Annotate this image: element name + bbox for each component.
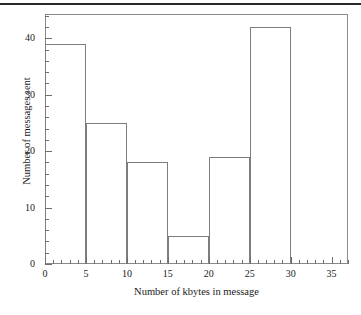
- x-axis-major-tick: [332, 257, 333, 264]
- y-axis-minor-tick: [45, 219, 49, 220]
- x-axis-minor-tick: [201, 260, 202, 264]
- y-axis-minor-tick: [45, 162, 49, 163]
- x-axis-minor-tick: [192, 260, 193, 264]
- x-axis-minor-tick: [233, 260, 234, 264]
- x-axis-minor-tick: [299, 260, 300, 264]
- x-axis-minor-tick: [340, 260, 341, 264]
- x-axis-minor-tick: [143, 260, 144, 264]
- x-axis-minor-tick: [102, 260, 103, 264]
- x-axis-tick-label: 15: [153, 268, 183, 279]
- x-axis-minor-tick: [274, 260, 275, 264]
- x-axis-minor-tick: [61, 260, 62, 264]
- x-axis-major-tick: [168, 257, 169, 264]
- x-axis-minor-tick: [315, 260, 316, 264]
- x-axis-tick-label: 10: [112, 268, 142, 279]
- x-axis-minor-tick: [94, 260, 95, 264]
- x-axis-major-tick: [291, 257, 292, 264]
- y-axis-minor-tick: [45, 117, 49, 118]
- histogram-bar: [45, 44, 86, 264]
- x-axis-minor-tick: [53, 260, 54, 264]
- y-axis-title: Number of messages sent: [21, 41, 33, 221]
- x-axis-major-tick: [127, 257, 128, 264]
- x-axis-major-tick: [209, 257, 210, 264]
- histogram-bar: [168, 236, 209, 264]
- y-axis-major-tick: [45, 95, 52, 96]
- y-axis-minor-tick: [45, 72, 49, 73]
- histogram-bar: [250, 27, 291, 264]
- y-axis-minor-tick: [45, 106, 49, 107]
- y-axis-minor-tick: [45, 27, 49, 28]
- y-axis-major-tick: [45, 38, 52, 39]
- y-axis-major-tick: [45, 208, 52, 209]
- x-axis-minor-tick: [217, 260, 218, 264]
- plot-area: [45, 14, 348, 264]
- x-axis-tick-label: 5: [71, 268, 101, 279]
- x-axis-minor-tick: [225, 260, 226, 264]
- x-axis-minor-tick: [160, 260, 161, 264]
- y-axis-minor-tick: [45, 230, 49, 231]
- y-axis-minor-tick: [45, 185, 49, 186]
- histogram-bar: [86, 123, 127, 264]
- x-axis-minor-tick: [266, 260, 267, 264]
- histogram-bar: [127, 162, 168, 264]
- y-axis-minor-tick: [45, 83, 49, 84]
- x-axis-minor-tick: [70, 260, 71, 264]
- y-axis-minor-tick: [45, 61, 49, 62]
- x-axis-minor-tick: [258, 260, 259, 264]
- x-axis-tick-label: 25: [235, 268, 265, 279]
- x-axis-major-tick: [250, 257, 251, 264]
- histogram-figure: 010203040 05101520253035 Number of kbyte…: [0, 0, 361, 315]
- x-axis-major-tick: [45, 257, 46, 264]
- x-axis-tick-label: 20: [194, 268, 224, 279]
- y-axis-minor-tick: [45, 174, 49, 175]
- x-axis-tick-label: 35: [317, 268, 347, 279]
- y-axis-minor-tick: [45, 241, 49, 242]
- x-axis-minor-tick: [184, 260, 185, 264]
- x-axis-minor-tick: [78, 260, 79, 264]
- histogram-bar: [209, 157, 250, 264]
- y-axis-minor-tick: [45, 253, 49, 254]
- x-axis-major-tick: [86, 257, 87, 264]
- x-axis-minor-tick: [119, 260, 120, 264]
- x-axis-minor-tick: [151, 260, 152, 264]
- y-axis-minor-tick: [45, 129, 49, 130]
- x-axis-minor-tick: [282, 260, 283, 264]
- x-axis-minor-tick: [135, 260, 136, 264]
- x-axis-minor-tick: [348, 260, 349, 264]
- x-axis-minor-tick: [323, 260, 324, 264]
- x-axis-title: Number of kbytes in message: [45, 286, 348, 298]
- x-axis-minor-tick: [307, 260, 308, 264]
- x-axis-minor-tick: [111, 260, 112, 264]
- x-axis-tick-label: 30: [276, 268, 306, 279]
- x-axis-minor-tick: [242, 260, 243, 264]
- y-axis-major-tick: [45, 151, 52, 152]
- y-axis-minor-tick: [45, 196, 49, 197]
- y-axis-minor-tick: [45, 50, 49, 51]
- y-axis-minor-tick: [45, 16, 49, 17]
- x-axis-tick-label: 0: [30, 268, 60, 279]
- y-axis-major-tick: [45, 264, 52, 265]
- x-axis-minor-tick: [176, 260, 177, 264]
- y-axis-minor-tick: [45, 140, 49, 141]
